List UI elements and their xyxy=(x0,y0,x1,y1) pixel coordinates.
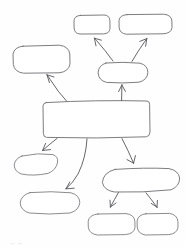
edge-big-to-bottom-right-pill xyxy=(146,193,157,207)
edge-big-to-bottom-left-pill xyxy=(110,193,118,207)
edge-hub-to-lower-left-blob xyxy=(43,138,57,150)
node-lower-left-blob[interactable] xyxy=(14,154,57,175)
node-bottom-right-pill[interactable] xyxy=(137,213,178,235)
edge-mid-to-top-left-pill xyxy=(94,38,113,61)
edge-hub-to-left-oval xyxy=(47,75,67,101)
node-lower-right-big[interactable] xyxy=(102,168,179,192)
node-mid-right-oval[interactable] xyxy=(98,62,148,83)
edge-hub-to-lower-left-oval xyxy=(66,139,87,189)
sketch-canvas xyxy=(0,0,185,247)
node-shape-top-left-pill xyxy=(74,15,110,34)
concept-map-diagram xyxy=(0,0,185,247)
node-shape-center-rectangle xyxy=(43,101,150,138)
edge-hub-to-lower-right-big xyxy=(122,139,135,164)
node-left-oval[interactable] xyxy=(13,45,70,73)
node-shape-mid-right-oval xyxy=(98,62,148,83)
node-top-left-pill[interactable] xyxy=(74,15,110,34)
node-center-rectangle[interactable] xyxy=(43,101,150,138)
node-shape-bottom-right-pill xyxy=(137,213,178,235)
edge-hub-to-mid-right-oval xyxy=(119,85,126,101)
node-lower-left-oval[interactable] xyxy=(20,192,80,214)
node-shape-bottom-left-pill xyxy=(88,214,135,235)
node-shape-left-oval xyxy=(13,45,70,73)
node-shape-lower-right-big xyxy=(102,168,179,192)
node-top-right-pill[interactable] xyxy=(119,14,172,34)
paper-edge-artifact xyxy=(11,243,23,244)
node-shape-lower-left-blob xyxy=(14,154,57,175)
node-shape-top-right-pill xyxy=(119,14,172,34)
node-shape-lower-left-oval xyxy=(20,192,80,214)
edge-mid-to-top-right-pill xyxy=(132,39,147,62)
node-bottom-left-pill[interactable] xyxy=(88,214,135,235)
